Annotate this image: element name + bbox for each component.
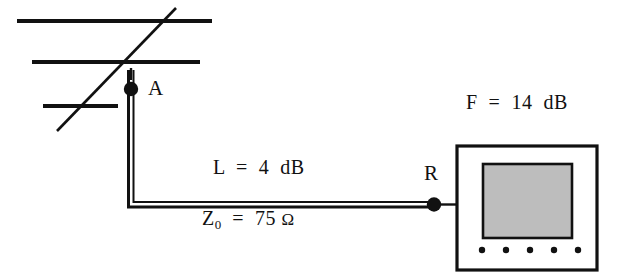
receiver-control-dot: [503, 247, 509, 253]
receiver-control-dot: [527, 247, 533, 253]
receiver-unit: [457, 146, 597, 270]
characteristic-impedance-label: Z0 = 75 Ω: [202, 208, 295, 231]
impedance-symbol: Z: [202, 207, 215, 229]
antenna-terminal-label: A: [148, 78, 163, 99]
twin-lead-transmission-line: [129, 68, 459, 207]
receiver-control-dot: [479, 247, 485, 253]
cable-loss-label: L = 4 dB: [213, 157, 305, 177]
antenna-receiver-diagram: A R F = 14 dB L = 4 dB Z0 = 75 Ω: [0, 0, 622, 280]
impedance-value: = 75: [221, 207, 281, 229]
noise-figure-label: F = 14 dB: [466, 92, 568, 112]
receiver-control-dot: [575, 247, 581, 253]
receiver-control-dot: [551, 247, 557, 253]
receiver-terminal-dot: [427, 197, 441, 211]
feedline-conductor-inner: [134, 70, 433, 202]
receiver-terminal-label: R: [424, 163, 438, 184]
antenna-boom: [57, 8, 176, 131]
ohm-unit-symbol: Ω: [282, 210, 295, 229]
feedline-conductor-outer: [129, 70, 433, 207]
receiver-display-screen: [483, 164, 572, 238]
antenna-terminal-dot: [124, 82, 138, 96]
diagram-canvas: [0, 0, 622, 280]
yagi-antenna: [17, 8, 212, 131]
